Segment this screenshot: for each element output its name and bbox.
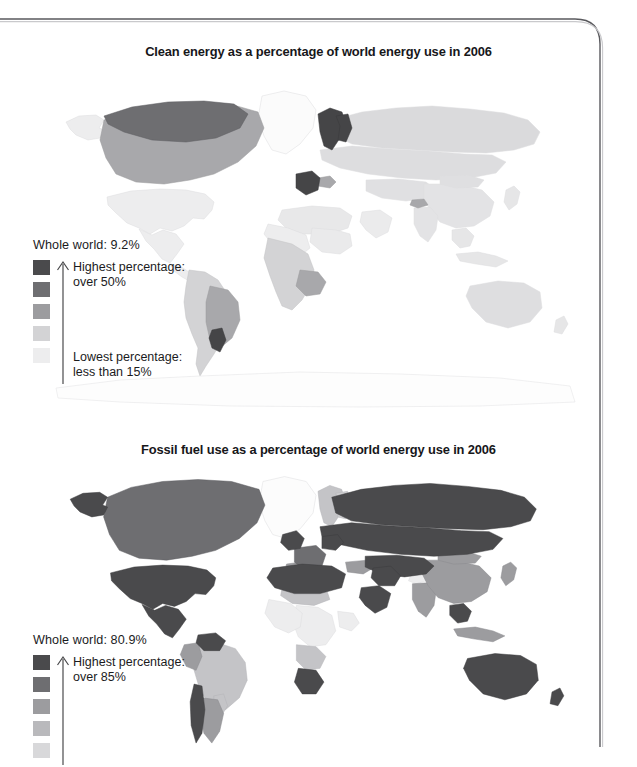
legend-swatch-4	[33, 721, 50, 736]
legend-world-total: Whole world: 9.2%	[33, 238, 223, 252]
legend-swatch-5	[33, 348, 50, 363]
legend-high-label: Highest percentage: over 85%	[73, 655, 185, 685]
page-title-clean-energy: Clean energy as a percentage of world en…	[14, 44, 622, 59]
legend-swatch-5	[33, 743, 50, 758]
up-arrow-icon	[56, 655, 70, 765]
legend-swatch-3	[33, 304, 50, 319]
legend-swatch-2	[33, 677, 50, 692]
legend-swatch-1	[33, 260, 50, 275]
legend-swatch-3	[33, 699, 50, 714]
legend-world-total: Whole world: 80.9%	[33, 633, 223, 647]
legend-label-column: Highest percentage: over 50% Lowest perc…	[73, 260, 185, 290]
legend-low-label: Lowest percentage: less than 15%	[73, 350, 182, 380]
legend-fossil-fuel: Whole world: 80.9% Highest percentage: o…	[33, 633, 223, 767]
panel-clean-energy: Clean energy as a percentage of world en…	[0, 0, 637, 420]
legend-high-label: Highest percentage: over 50%	[73, 260, 185, 290]
legend-label-column: Highest percentage: over 85%	[73, 655, 185, 685]
legend-swatch-1	[33, 655, 50, 670]
legend-swatch-2	[33, 282, 50, 297]
up-arrow-icon	[56, 258, 70, 386]
legend-swatch-4	[33, 326, 50, 341]
legend-clean-energy: Whole world: 9.2% Highest percentage: ov…	[33, 238, 223, 388]
legend-swatch-column	[33, 655, 50, 765]
legend-swatch-column	[33, 260, 50, 370]
panel-fossil-fuel: Fossil fuel use as a percentage of world…	[0, 420, 637, 747]
